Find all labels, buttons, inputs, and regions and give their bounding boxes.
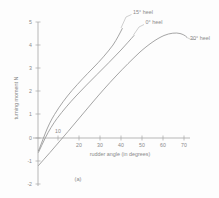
y-axis-ticks: 5 4 3 2 1 0 -1 -2 — [27, 19, 40, 187]
x-tick-label-20: 20 — [76, 142, 82, 148]
annotations-group: 15° heel 0° heel 30° heel — [121, 9, 210, 42]
y-tick-label-0: 0 — [29, 135, 32, 141]
x-tick-label-70: 70 — [181, 142, 187, 148]
x-tick-label-30: 30 — [97, 142, 103, 148]
curve-label-0-deg-heel: 0° heel — [146, 19, 163, 25]
x-tick-label-10: 10 — [55, 128, 61, 134]
x-tick-label-50: 50 — [139, 142, 145, 148]
x-axis-title: rudder angle (in degrees) — [90, 151, 151, 157]
leader-line-15-deg — [121, 15, 132, 29]
y-tick-label-neg1: -1 — [27, 158, 32, 164]
y-tick-label-5: 5 — [29, 19, 32, 25]
y-tick-label-2: 2 — [29, 88, 32, 94]
y-axis-title: turning moment N — [13, 76, 19, 119]
figure-panel: 5 4 3 2 1 0 -1 -2 10 20 30 40 50 60 70 — [0, 0, 219, 198]
y-tick-label-3: 3 — [29, 65, 32, 71]
curve-0-deg-heel — [39, 36, 135, 153]
x-tick-label-60: 60 — [160, 142, 166, 148]
y-tick-label-neg2: -2 — [27, 181, 32, 187]
curve-label-30-deg-heel: 30° heel — [190, 35, 210, 41]
curve-label-15-deg-heel: 15° heel — [133, 9, 153, 15]
x-tick-label-40: 40 — [118, 142, 124, 148]
leader-line-0-deg — [134, 25, 145, 36]
y-tick-label-1: 1 — [29, 111, 32, 117]
figure-caption: (a) — [75, 176, 82, 182]
y-tick-label-4: 4 — [29, 42, 32, 48]
chart-canvas: 5 4 3 2 1 0 -1 -2 10 20 30 40 50 60 70 — [0, 0, 219, 198]
curve-15-deg-heel — [39, 29, 123, 151]
